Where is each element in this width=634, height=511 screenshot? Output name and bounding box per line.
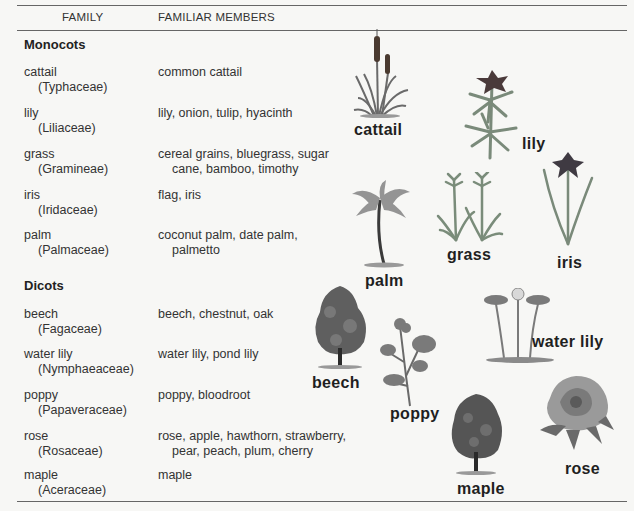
family-scientific: (Gramineae) (24, 162, 154, 177)
label-palm: palm (365, 272, 404, 290)
family-name: cattail (24, 65, 57, 79)
iris-illustration (540, 148, 596, 248)
header-rule (17, 30, 627, 31)
label-iris: iris (557, 254, 582, 272)
label-poppy: poppy (390, 405, 440, 423)
members-cont: pear, peach, plum, cherry (158, 444, 358, 459)
label-maple: maple (457, 480, 505, 498)
members: water lily, pond lily (158, 347, 259, 361)
members: cereal grains, bluegrass, sugar (158, 147, 329, 161)
members: coconut palm, date palm, (158, 228, 298, 242)
rose-illustration (536, 374, 616, 454)
water-lily-illustration (480, 288, 560, 368)
lily-illustration (462, 66, 522, 160)
top-rule (17, 5, 627, 6)
family-name: poppy (24, 388, 58, 402)
family-scientific: (Aceraceae) (24, 483, 154, 498)
poppy-illustration (380, 316, 440, 408)
family-scientific: (Palmaceae) (24, 243, 154, 258)
members: beech, chestnut, oak (158, 307, 273, 321)
grass-illustration (436, 172, 506, 242)
family-scientific: (Papaveraceae) (24, 403, 154, 418)
family-name: rose (24, 429, 48, 443)
label-rose: rose (565, 460, 600, 478)
family-scientific: (Fagaceae) (24, 322, 154, 337)
group-dicots: Dicots (24, 278, 64, 293)
family-name: iris (24, 188, 40, 202)
header-members: FAMILIAR MEMBERS (158, 11, 275, 23)
family-name: grass (24, 147, 55, 161)
label-water-lily: water lily (532, 333, 603, 351)
family-name: water lily (24, 347, 73, 361)
label-grass: grass (447, 246, 491, 264)
label-beech: beech (312, 374, 360, 392)
members: rose, apple, hawthorn, strawberry, (158, 429, 346, 443)
family-name: maple (24, 468, 58, 482)
beech-illustration (310, 282, 370, 370)
maple-illustration (446, 390, 506, 476)
family-scientific: (Rosaceae) (24, 444, 154, 459)
family-scientific: (Liliaceae) (24, 121, 154, 136)
members: flag, iris (158, 188, 201, 202)
family-scientific: (Typhaceae) (24, 80, 154, 95)
family-name: beech (24, 307, 58, 321)
members: poppy, bloodroot (158, 388, 250, 402)
label-cattail: cattail (354, 121, 402, 139)
family-scientific: (Nymphaeaceae) (24, 362, 154, 377)
members: maple (158, 468, 192, 482)
bottom-rule (17, 501, 627, 502)
family-name: lily (24, 106, 39, 120)
family-name: palm (24, 228, 51, 242)
members-cont: cane, bamboo, timothy (158, 162, 358, 177)
members: common cattail (158, 65, 242, 79)
family-scientific: (Iridaceae) (24, 203, 154, 218)
cattail-illustration (352, 28, 412, 118)
members: lily, onion, tulip, hyacinth (158, 106, 293, 120)
palm-illustration (350, 180, 412, 270)
group-monocots: Monocots (24, 37, 85, 52)
header-family: FAMILY (62, 11, 103, 23)
members-cont: palmetto (158, 243, 358, 258)
